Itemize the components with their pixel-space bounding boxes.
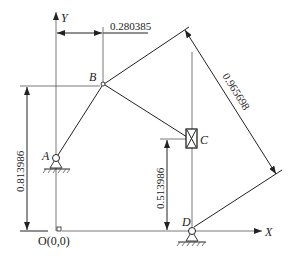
- pivot-a: A: [41, 149, 70, 173]
- dimension-link-length: 0.965698: [104, 27, 282, 227]
- dimension-link-length-value: 0.965698: [220, 71, 252, 113]
- pivot-d: D: [177, 215, 206, 246]
- link-ab: [58, 86, 102, 155]
- slider-c-label: C: [200, 133, 209, 147]
- origin-label: O(0,0): [38, 234, 70, 248]
- pivot-a-label: A: [41, 149, 50, 163]
- y-axis: Y: [56, 11, 69, 231]
- dimension-b-y-value: 0.813986: [14, 150, 26, 192]
- x-axis-label: X: [264, 225, 273, 239]
- dimension-b-x: 0.280385: [57, 20, 152, 82]
- joint-b-label: B: [89, 70, 97, 84]
- dimension-b-x-value: 0.280385: [110, 20, 152, 32]
- y-axis-label: Y: [61, 11, 69, 25]
- link-bc: [105, 85, 187, 137]
- slider-c: C: [186, 129, 209, 148]
- dimension-c-y-value: 0.513986: [154, 167, 166, 209]
- pivot-d-label: D: [181, 215, 191, 229]
- origin-marker: O(0,0): [38, 227, 70, 248]
- mechanism-diagram: Y X O(0,0) 0.280385 0.813986 0.513986 0.…: [0, 0, 296, 263]
